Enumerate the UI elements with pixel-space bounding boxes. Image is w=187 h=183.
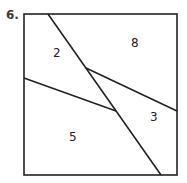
long-diagonal-line	[48, 14, 161, 175]
region-label-2: 2	[53, 46, 61, 60]
left-segment-line	[24, 78, 116, 111]
outer-square	[24, 14, 177, 175]
geometry-diagram: 2 8 3 5	[0, 0, 187, 183]
region-label-8: 8	[131, 36, 139, 50]
region-label-3: 3	[150, 110, 158, 124]
region-label-5: 5	[69, 130, 77, 144]
